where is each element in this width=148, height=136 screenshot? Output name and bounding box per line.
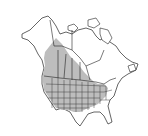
arctic-island: [88, 18, 100, 28]
north-america-map: [0, 0, 148, 136]
range-map: [0, 0, 148, 136]
